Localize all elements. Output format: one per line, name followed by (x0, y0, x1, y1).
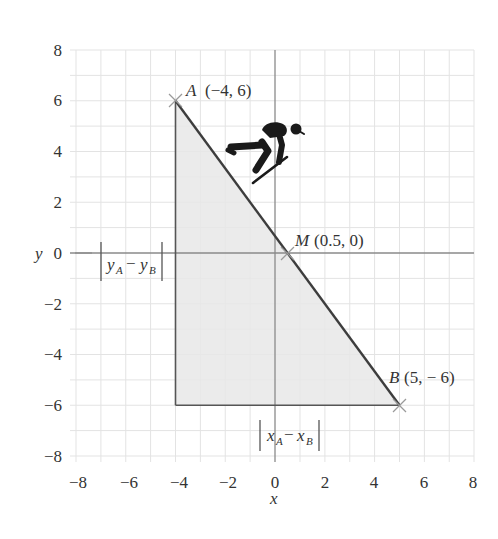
point-M-label: M (0.5, 0) (294, 231, 364, 250)
xleg-a: x (266, 426, 275, 445)
point-B-coords: (5, − 6) (404, 368, 455, 387)
x-tick: −4 (170, 473, 189, 492)
xleg-minus: − (284, 425, 294, 444)
point-B-name: B (389, 368, 400, 387)
coordinate-diagram: 8 6 4 2 0 −2 −4 −6 −8 y −8 −6 −4 −2 0 2 … (0, 0, 498, 539)
y-tick: 2 (54, 193, 63, 212)
point-M-name: M (294, 231, 310, 250)
point-A-label: A (−4, 6) (185, 81, 251, 100)
y-tick: −4 (44, 345, 63, 364)
vertical-leg-annotation: y A − y B (101, 242, 162, 281)
x-tick: 6 (420, 473, 429, 492)
y-axis-label: y (33, 244, 43, 263)
x-axis-label: x (269, 489, 278, 508)
horizontal-leg-annotation: x A − x B (260, 420, 319, 451)
xleg-b: x (296, 426, 305, 445)
point-M-coords: (0.5, 0) (314, 231, 364, 250)
skier-icon (228, 122, 304, 183)
y-tick-labels: 8 6 4 2 0 −2 −4 −6 −8 (44, 41, 63, 466)
x-tick: 4 (370, 473, 379, 492)
yleg-a: y (105, 255, 115, 274)
x-tick: −2 (219, 473, 237, 492)
yleg-sub-a: A (115, 264, 123, 276)
yleg-b: y (138, 255, 148, 274)
y-tick: −6 (44, 396, 62, 415)
point-B-label: B (5, − 6) (389, 368, 455, 387)
x-tick: 8 (469, 473, 478, 492)
x-tick: −6 (120, 473, 138, 492)
y-tick: 0 (54, 244, 63, 263)
yleg-sub-b: B (149, 264, 156, 276)
y-tick: 6 (54, 91, 63, 110)
x-tick: 2 (321, 473, 330, 492)
point-A-name: A (185, 81, 197, 100)
y-tick: −2 (44, 295, 62, 314)
xleg-sub-a: A (275, 435, 283, 447)
y-tick: 8 (54, 41, 63, 60)
y-tick: −8 (44, 447, 62, 466)
yleg-minus: − (126, 254, 136, 273)
xleg-sub-b: B (306, 435, 313, 447)
y-tick: 4 (54, 142, 63, 161)
x-tick: −8 (69, 473, 87, 492)
point-A-coords: (−4, 6) (205, 81, 251, 100)
